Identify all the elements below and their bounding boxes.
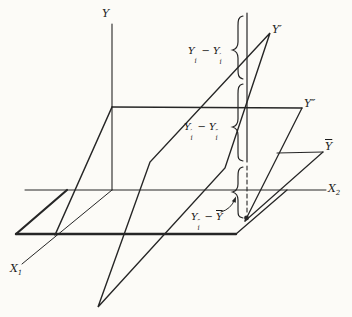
y-bar-label: Y (325, 141, 332, 153)
y-prime-label-prime: ′ (279, 23, 282, 36)
y-bar-label-base: Y (325, 140, 332, 153)
brace-top (233, 16, 244, 79)
x1-axis-label: X1 (10, 263, 22, 279)
brace-bottom (233, 167, 244, 218)
y-prime-plane (98, 33, 270, 307)
y-double-prime-plane-left-edge (55, 107, 112, 235)
x1-axis-label-sub: 1 (18, 269, 22, 277)
deviation-label-top: Yi−Y′i (188, 45, 224, 65)
dev-top-term1: Y (188, 45, 195, 56)
leader-arrowhead (232, 197, 236, 203)
figure-canvas: Y X1 X2 Y′ Y″ Y Yi−Y′i Y′i−Y″i Y″i−Y (0, 0, 352, 317)
y-bar-plane-back-edge (277, 152, 323, 153)
deviation-label-middle: Y′i−Y″i (184, 121, 220, 141)
y-double-prime-plane-right-edge (245, 108, 302, 221)
brace-middle (233, 84, 244, 161)
dev-bot-term1: Y (191, 211, 198, 222)
dev-mid-term2-marks: ″i (216, 129, 220, 141)
dev-mid-term1-marks: ′i (191, 129, 195, 141)
x2-axis-label: X2 (328, 183, 340, 199)
dev-bot-term1-marks: ″i (198, 219, 202, 231)
dev-bot-minus: − (205, 211, 213, 223)
dev-bot-term2-bar: Y (216, 211, 223, 222)
dev-mid-minus: − (198, 121, 206, 133)
leader-arrow (221, 200, 235, 212)
y-double-prime-label-prime: ″ (311, 97, 315, 110)
dev-top-term1-marks: i (195, 52, 199, 64)
x2-axis-label-base: X (328, 182, 336, 195)
diagram-artwork (0, 0, 352, 317)
y-axis-label: Y (102, 8, 109, 20)
x1-axis-line (22, 190, 112, 264)
deviation-label-bottom: Y″i−Y (191, 211, 223, 231)
y-double-prime-label: Y″ (304, 98, 315, 110)
dev-mid-term1: Y (184, 121, 191, 132)
y-prime-label: Y′ (272, 24, 282, 36)
dev-mid-term2: Y (209, 121, 216, 132)
mean-point-dot (244, 216, 249, 221)
y-double-prime-plane-top-edge (112, 107, 302, 108)
floor-plane-right-edge (236, 190, 287, 234)
floor-plane-left-edge (16, 190, 67, 234)
x2-axis-label-sub: 2 (336, 189, 340, 197)
y-bar-plane-right-edge (245, 152, 323, 221)
dev-top-term2: Y (213, 45, 220, 56)
x1-axis-label-base: X (10, 262, 18, 275)
dev-top-minus: − (202, 45, 210, 57)
dev-top-term2-marks: ′i (220, 53, 224, 65)
